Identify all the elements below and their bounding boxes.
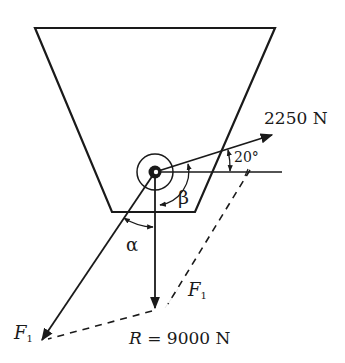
f1-left-sub: 1 bbox=[27, 333, 33, 344]
f1-left-label: F1 bbox=[14, 324, 33, 344]
f1-right-main: F bbox=[188, 279, 201, 300]
force-2250-label: 2250 N bbox=[264, 110, 328, 127]
angle-20-arc bbox=[228, 150, 230, 171]
resultant-value: = 9000 N bbox=[142, 328, 231, 348]
f1-right-sub: 1 bbox=[201, 290, 207, 301]
beta-label: β bbox=[178, 188, 189, 207]
alpha-label: α bbox=[126, 236, 138, 254]
resultant-label: R = 9000 N bbox=[129, 330, 230, 347]
angle-20-label: 20° bbox=[234, 150, 259, 164]
pulley-axle bbox=[154, 170, 158, 174]
force-f1-dashed-arrowhead bbox=[165, 289, 178, 308]
alpha-angle-arc bbox=[124, 218, 153, 227]
diagram-svg bbox=[0, 0, 345, 363]
resultant-var: R bbox=[129, 328, 142, 348]
f1-left-main: F bbox=[14, 322, 27, 343]
force-diagram: 2250 N 20° β α F1 F1 R = 9000 N bbox=[0, 0, 345, 363]
f1-right-label: F1 bbox=[188, 281, 207, 301]
